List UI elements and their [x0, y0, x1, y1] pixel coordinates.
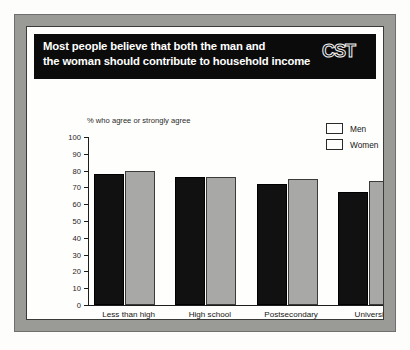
title-banner: Most people believe that both the man an… — [34, 34, 376, 79]
y-axis-tick-label: 70 — [61, 183, 81, 192]
y-axis-tick-mark — [84, 288, 88, 289]
y-axis-tick-label: 20 — [61, 267, 81, 276]
plot-area: % who agree or strongly agree Men Women … — [27, 85, 383, 319]
y-axis-tick-mark — [84, 187, 88, 188]
y-axis-tick-mark — [84, 171, 88, 172]
y-axis-tick-label: 80 — [61, 167, 81, 176]
bar-men — [257, 184, 287, 305]
y-axis-tick-mark — [84, 271, 88, 272]
y-axis-tick-mark — [84, 154, 88, 155]
y-axis-tick-label: 40 — [61, 234, 81, 243]
y-axis-tick-label: 10 — [61, 284, 81, 293]
cst-logo-icon: CST — [321, 41, 367, 61]
y-axis-tick-mark — [84, 255, 88, 256]
x-axis-line — [88, 305, 384, 306]
y-axis-line — [88, 137, 89, 306]
y-axis-tick-mark — [84, 137, 88, 138]
figure-frame: Most people believe that both the man an… — [14, 14, 396, 332]
figure-page: Most people believe that both the man an… — [0, 0, 410, 350]
bar-men — [338, 192, 368, 305]
y-axis-tick-label: 0 — [61, 301, 81, 310]
y-axis-tick-label: 60 — [61, 200, 81, 209]
y-axis-tick-label: 30 — [61, 251, 81, 260]
y-axis-tick-label: 90 — [61, 150, 81, 159]
bar-men — [94, 174, 124, 305]
y-axis-tick-mark — [84, 305, 88, 306]
bar-women — [206, 177, 236, 305]
y-axis-tick-label: 100 — [61, 133, 81, 142]
y-axis-tick-label: 50 — [61, 217, 81, 226]
y-axis-tick-mark — [84, 238, 88, 239]
cst-logo-text: CST — [322, 41, 356, 61]
figure-card: Most people believe that both the man an… — [26, 26, 384, 320]
y-axis-tick-mark — [84, 204, 88, 205]
x-axis-category-label: University — [320, 310, 384, 320]
bar-women — [125, 171, 155, 305]
page-title: Most people believe that both the man an… — [43, 39, 333, 68]
bar-women — [288, 179, 318, 305]
y-axis-tick-mark — [84, 221, 88, 222]
bar-chart: 0102030405060708090100Less than high sch… — [27, 85, 384, 320]
bar-men — [175, 177, 205, 305]
bar-women — [369, 181, 384, 305]
